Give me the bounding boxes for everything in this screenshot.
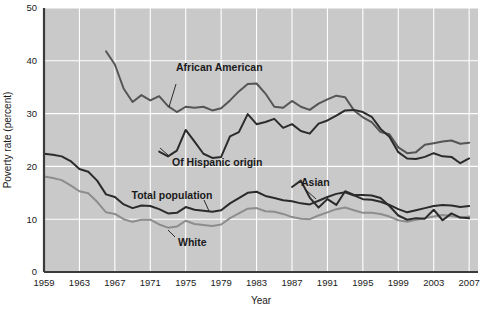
series-annotation-white: White xyxy=(178,236,207,248)
chart-canvas: 0102030405019591963196719711975197919831… xyxy=(0,0,482,310)
x-axis-tick-label: 1963 xyxy=(69,277,90,288)
series-annotation-asian: Asian xyxy=(301,176,330,188)
y-axis-tick-label: 40 xyxy=(26,55,37,66)
x-axis-tick-label: 1999 xyxy=(388,277,409,288)
x-axis-title: Year xyxy=(251,295,272,306)
y-axis-tick-label: 30 xyxy=(26,108,37,119)
x-axis-tick-label: 1975 xyxy=(175,277,196,288)
x-axis-tick-label: 2007 xyxy=(459,277,480,288)
series-annotation-african-american: African American xyxy=(176,61,263,73)
x-axis-tick-label: 1979 xyxy=(211,277,232,288)
x-axis-tick-label: 1995 xyxy=(352,277,373,288)
poverty-rate-line-chart: 0102030405019591963196719711975197919831… xyxy=(0,0,482,310)
series-annotation-of-hispanic-origin: Of Hispanic origin xyxy=(172,156,262,168)
y-axis-tick-label: 0 xyxy=(32,266,37,277)
x-axis-tick-label: 1987 xyxy=(281,277,302,288)
x-axis-tick-label: 1967 xyxy=(104,277,125,288)
y-axis-tick-label: 50 xyxy=(26,2,37,13)
x-axis-tick-label: 1983 xyxy=(246,277,267,288)
y-axis-tick-label: 10 xyxy=(26,214,37,225)
x-axis-tick-label: 1959 xyxy=(33,277,54,288)
y-axis-title: Poverty rate (percent) xyxy=(2,92,13,189)
x-axis-tick-label: 1991 xyxy=(317,277,338,288)
x-axis-tick-label: 1971 xyxy=(140,277,161,288)
x-axis-tick-label: 2003 xyxy=(423,277,444,288)
series-annotation-total-population: Total population xyxy=(132,189,213,201)
plot-area-background xyxy=(44,8,478,272)
y-axis-tick-label: 20 xyxy=(26,161,37,172)
